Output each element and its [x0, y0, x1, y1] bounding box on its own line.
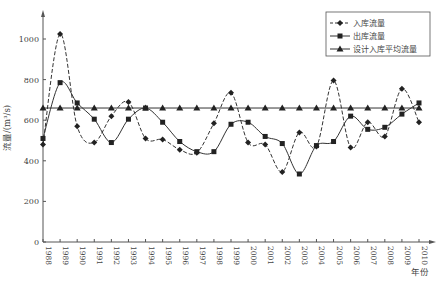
- x-tick-label: 2009: [403, 246, 412, 265]
- y-axis-arrow-icon: [41, 10, 45, 17]
- y-tick-label: 0: [34, 238, 39, 247]
- y-tick-label: 200: [24, 197, 39, 206]
- x-tick-label: 2006: [352, 246, 361, 265]
- y-tick-label: 600: [24, 116, 39, 125]
- y-tick-label: 1000: [19, 35, 39, 44]
- x-tick-label: 1989: [61, 246, 70, 265]
- x-tick-label: 1990: [78, 246, 87, 265]
- x-tick-label: 1988: [44, 246, 53, 265]
- series-design-average: [40, 105, 423, 111]
- x-tick-label: 1994: [147, 246, 156, 265]
- x-tick-label: 1995: [164, 246, 173, 265]
- x-tick-label: 2001: [266, 246, 275, 265]
- x-tick-label: 1996: [181, 246, 190, 265]
- x-tick-label: 2000: [249, 246, 258, 265]
- x-tick-label: 1991: [95, 246, 104, 265]
- x-tick-label: 2003: [300, 246, 309, 265]
- x-tick-label: 1999: [232, 246, 241, 265]
- legend-label-outflow: 出库流量: [353, 31, 385, 41]
- line-chart: 02004006008001000流量/(m³/s)19881989199019…: [0, 0, 440, 291]
- x-tick-label: 1997: [198, 246, 207, 265]
- legend-label-design-average: 设计入库平均流量: [353, 44, 417, 54]
- x-axis-arrow-icon: [429, 240, 436, 244]
- x-tick-label: 2010: [420, 246, 429, 265]
- y-axis-label: 流量/(m³/s): [2, 105, 12, 151]
- legend: 入库流量出库流量设计入库平均流量: [326, 12, 430, 56]
- x-tick-label: 2004: [317, 246, 326, 265]
- x-tick-label: 1993: [129, 246, 138, 265]
- y-tick-label: 800: [24, 76, 39, 85]
- y-tick-label: 400: [24, 157, 39, 166]
- x-tick-label: 2008: [386, 246, 395, 265]
- x-axis-label: 年份: [411, 267, 429, 277]
- x-tick-label: 1992: [112, 246, 121, 265]
- x-tick-label: 2002: [283, 246, 292, 265]
- legend-label-inflow: 入库流量: [353, 18, 385, 28]
- x-tick-label: 1998: [215, 246, 224, 265]
- x-tick-label: 2005: [335, 246, 344, 265]
- x-tick-label: 2007: [369, 246, 378, 265]
